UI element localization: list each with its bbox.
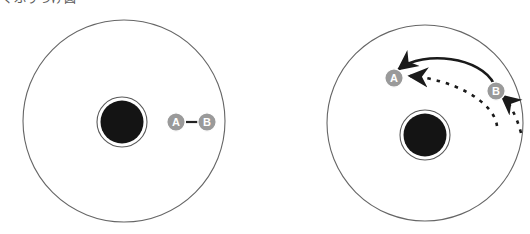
marker-a[interactable]: A	[167, 113, 185, 131]
marker-a-label: A	[390, 72, 398, 84]
core-disc	[101, 101, 144, 144]
marker-b[interactable]: B	[487, 82, 505, 100]
core-disc	[404, 114, 447, 157]
before-state-diagram: A B	[23, 20, 225, 222]
marker-a[interactable]: A	[385, 69, 403, 87]
marker-b-label: B	[492, 85, 500, 97]
after-state-diagram: A B	[327, 25, 523, 221]
marker-a-label: A	[172, 116, 180, 128]
figure-root: くふりつけ図 A B	[0, 0, 530, 234]
diagram-canvas: A B A B	[0, 0, 530, 234]
figure-caption: くふりつけ図	[1, 0, 76, 6]
marker-b[interactable]: B	[198, 113, 216, 131]
marker-b-label: B	[203, 116, 211, 128]
